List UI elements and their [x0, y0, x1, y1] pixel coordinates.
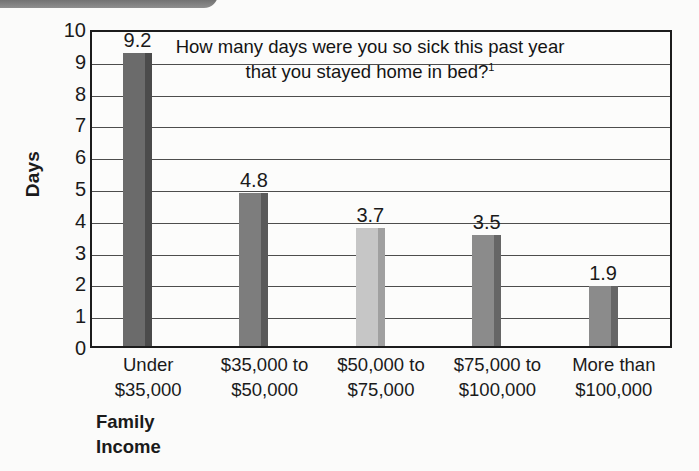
x-tick-label-line: $35,000 to — [206, 353, 322, 378]
x-tick-label-line: $100,000 — [556, 378, 672, 403]
bar-side-shadow — [261, 193, 268, 346]
bar[interactable] — [589, 286, 618, 346]
y-tick-label: 1 — [44, 306, 86, 326]
y-tick-label: 10 — [44, 20, 86, 40]
x-axis-title-line: Income — [96, 435, 216, 460]
x-tick-label: $35,000 to$50,000 — [206, 353, 322, 403]
x-tick-label-line: More than — [556, 353, 672, 378]
bar-face — [472, 235, 494, 346]
y-tick-label: 2 — [44, 274, 86, 294]
x-tick-label-line: $35,000 — [90, 378, 206, 403]
bar-value-label: 4.8 — [217, 170, 290, 190]
y-tick-label: 5 — [44, 179, 86, 199]
bar-value-label: 9.2 — [101, 30, 174, 50]
bar-value-label: 1.9 — [567, 263, 640, 283]
bar[interactable] — [472, 235, 501, 346]
bar-side-shadow — [611, 286, 618, 346]
y-tick-label: 8 — [44, 84, 86, 104]
y-tick-label: 7 — [44, 115, 86, 135]
bar-value-label: 3.7 — [334, 205, 407, 225]
x-tick-label-line: $75,000 to — [439, 353, 555, 378]
bar-side-shadow — [494, 235, 501, 346]
bar-face — [123, 53, 145, 346]
x-axis-title-line: Family — [96, 410, 216, 435]
x-tick-label: $50,000 to$75,000 — [323, 353, 439, 403]
bar-slot: 1.9 — [558, 32, 674, 346]
y-axis-title: Days — [22, 139, 44, 209]
chart-question-text: How many days were you so sick this past… — [176, 36, 565, 82]
y-tick-label: 4 — [44, 211, 86, 231]
x-tick-label: More than$100,000 — [556, 353, 672, 403]
bar[interactable] — [123, 53, 152, 346]
footnote-marker: 1 — [488, 60, 494, 72]
bar-value-label: 3.5 — [450, 212, 523, 232]
bar-side-shadow — [145, 53, 152, 346]
y-tick-label: 3 — [44, 243, 86, 263]
x-axis-tick-labels: Under$35,000$35,000 to$50,000$50,000 to$… — [90, 353, 672, 409]
bar[interactable] — [239, 193, 268, 346]
bar-side-shadow — [378, 228, 385, 346]
y-tick-label: 6 — [44, 147, 86, 167]
x-tick-label-line: $50,000 — [206, 378, 322, 403]
x-tick-label-line: $75,000 — [323, 378, 439, 403]
x-tick-label-line: Under — [90, 353, 206, 378]
x-tick-label: $75,000 to$100,000 — [439, 353, 555, 403]
y-axis-tick-labels: 109876543210 — [44, 30, 86, 348]
x-tick-label-line: $100,000 — [439, 378, 555, 403]
y-tick-label: 9 — [44, 52, 86, 72]
y-tick-label: 0 — [44, 338, 86, 358]
bar-face — [356, 228, 378, 346]
bar-face — [589, 286, 611, 346]
x-axis-title: FamilyIncome — [96, 410, 216, 460]
bar[interactable] — [356, 228, 385, 346]
bar-chart-figure: Days 109876543210 9.24.83.73.51.9 How ma… — [0, 0, 699, 471]
x-tick-label-line: $50,000 to — [323, 353, 439, 378]
chart-question-title: How many days were you so sick this past… — [170, 35, 570, 84]
bar-face — [239, 193, 261, 346]
x-tick-label: Under$35,000 — [90, 353, 206, 403]
